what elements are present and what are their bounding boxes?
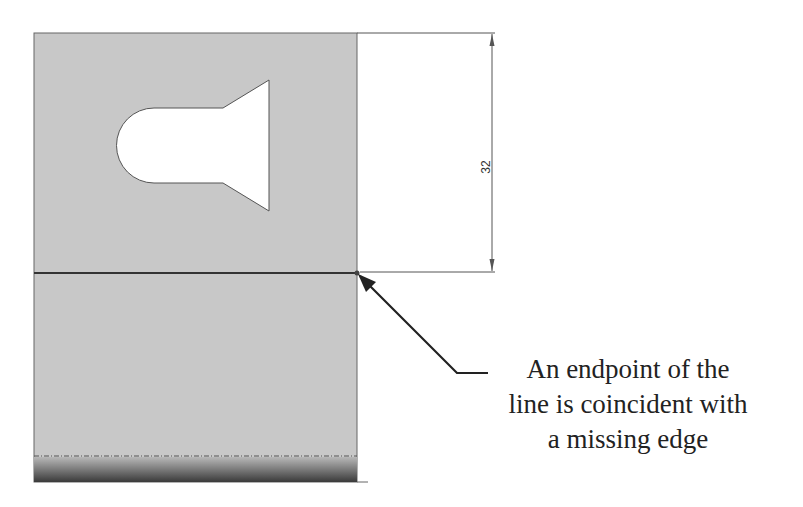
callout-line-1: An endpoint of the <box>468 352 788 387</box>
dimension-arrow-bottom <box>490 259 495 271</box>
dimension-arrow-top <box>490 34 495 46</box>
dimension-value[interactable]: 32 <box>479 152 495 182</box>
bottom-shaded-face <box>34 457 357 482</box>
callout-line-2: line is coincident with <box>468 387 788 422</box>
part-face <box>34 33 357 482</box>
callout-line-3: a missing edge <box>468 422 788 457</box>
callout-text: An endpoint of the line is coincident wi… <box>468 352 788 457</box>
